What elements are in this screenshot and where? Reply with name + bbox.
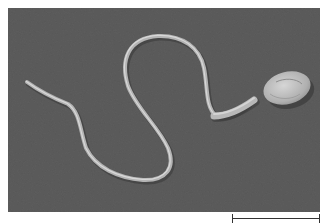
sem-micrograph: [8, 8, 320, 212]
scale-bar-line: [232, 218, 320, 219]
scale-bar: [232, 214, 320, 222]
scale-bar-right-tick: [319, 214, 320, 223]
